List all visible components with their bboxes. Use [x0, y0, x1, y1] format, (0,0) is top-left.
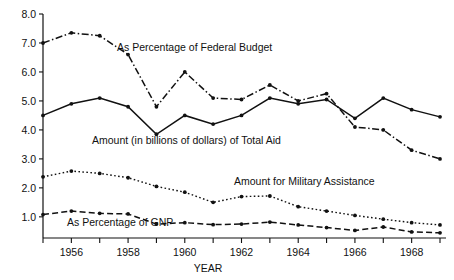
y-tick-label: 7.0 — [21, 37, 36, 49]
data-point-marker — [381, 225, 385, 229]
data-point-marker — [410, 108, 414, 112]
data-point-marker — [410, 148, 414, 152]
data-point-marker — [211, 122, 215, 126]
data-point-marker — [211, 223, 215, 227]
series-label-3: As Percentage of GNP — [67, 216, 173, 228]
data-point-marker — [98, 96, 102, 100]
series-label-1: Amount (in billions of dollars) of Total… — [92, 134, 281, 146]
data-point-marker — [353, 229, 357, 233]
x-tick-label: 1958 — [116, 246, 140, 258]
data-point-marker — [240, 114, 244, 118]
data-point-marker — [240, 98, 244, 102]
data-point-marker — [268, 194, 272, 198]
data-point-marker — [296, 223, 300, 227]
data-point-marker — [438, 223, 442, 227]
x-tick-label: 1964 — [287, 246, 311, 258]
data-point-marker — [69, 209, 73, 213]
x-tick-label: 1960 — [173, 246, 197, 258]
data-point-marker — [353, 125, 357, 129]
data-point-marker — [325, 92, 329, 96]
series-lines — [41, 31, 442, 235]
y-tick-label: 8.0 — [21, 8, 36, 20]
x-axis-title: YEAR — [194, 262, 223, 274]
series-annotations: As Percentage of Federal BudgetAmount (i… — [67, 41, 375, 228]
chart-container: 1.02.03.04.05.06.07.08.0 195619581960196… — [0, 0, 454, 280]
x-tick-label: 1968 — [400, 246, 424, 258]
data-point-marker — [126, 53, 130, 57]
data-point-marker — [41, 213, 45, 217]
data-point-marker — [41, 114, 45, 118]
y-tick-label: 2.0 — [21, 182, 36, 194]
data-point-marker — [296, 205, 300, 209]
data-point-marker — [353, 116, 357, 120]
x-tick-label: 1962 — [230, 246, 254, 258]
data-point-marker — [240, 222, 244, 226]
data-point-marker — [268, 220, 272, 224]
data-point-marker — [69, 169, 73, 173]
y-axis: 1.02.03.04.05.06.07.08.0 — [21, 8, 43, 238]
data-point-marker — [211, 96, 215, 100]
data-point-marker — [381, 96, 385, 100]
data-point-marker — [126, 176, 130, 180]
y-tick-label: 1.0 — [21, 211, 36, 223]
line-chart: 1.02.03.04.05.06.07.08.0 195619581960196… — [0, 0, 454, 280]
data-point-marker — [438, 115, 442, 119]
data-point-marker — [325, 98, 329, 102]
x-tick-label: 1966 — [343, 246, 367, 258]
data-point-marker — [325, 226, 329, 230]
y-tick-label: 6.0 — [21, 66, 36, 78]
data-point-marker — [268, 83, 272, 87]
data-point-marker — [155, 185, 159, 189]
data-point-marker — [410, 230, 414, 234]
data-point-marker — [353, 214, 357, 218]
data-point-marker — [69, 31, 73, 35]
data-point-marker — [183, 114, 187, 118]
data-point-marker — [98, 211, 102, 215]
data-point-marker — [98, 34, 102, 38]
x-tick-label: 1956 — [60, 246, 84, 258]
data-point-marker — [296, 102, 300, 106]
data-point-marker — [41, 41, 45, 45]
series-label-0: As Percentage of Federal Budget — [117, 41, 272, 53]
data-point-marker — [410, 221, 414, 225]
data-point-marker — [98, 171, 102, 175]
data-point-marker — [183, 190, 187, 194]
data-point-marker — [438, 157, 442, 161]
data-point-marker — [211, 200, 215, 204]
data-point-marker — [183, 221, 187, 225]
data-point-marker — [381, 128, 385, 132]
y-tick-label: 5.0 — [21, 95, 36, 107]
data-point-marker — [126, 105, 130, 109]
data-point-marker — [155, 105, 159, 109]
data-point-marker — [69, 102, 73, 106]
data-point-marker — [183, 70, 187, 74]
data-point-marker — [240, 195, 244, 199]
y-tick-label: 4.0 — [21, 124, 36, 136]
y-tick-label: 3.0 — [21, 153, 36, 165]
data-point-marker — [438, 231, 442, 235]
data-point-marker — [41, 175, 45, 179]
data-point-marker — [381, 217, 385, 221]
data-point-marker — [268, 96, 272, 100]
x-axis: 1956195819601962196419661968 — [43, 238, 446, 258]
series-label-2: Amount for Military Assistance — [234, 175, 375, 187]
data-point-marker — [325, 209, 329, 213]
